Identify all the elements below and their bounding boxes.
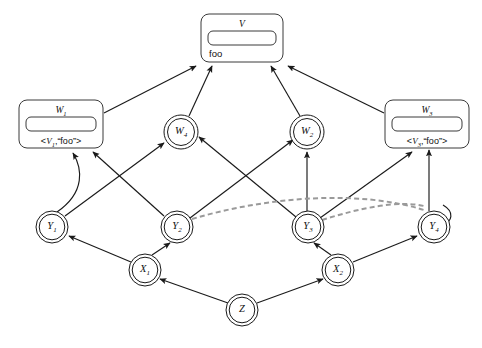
edge-w4-to-v (189, 66, 212, 116)
node-w1-content: <V1,“foo”> (41, 136, 81, 148)
edge-x1-to-y1 (69, 236, 131, 262)
node-y3[interactable]: Y3 (292, 211, 324, 243)
node-z-label: Z (239, 303, 245, 314)
node-w3-slot[interactable] (392, 117, 462, 131)
node-x1[interactable]: X1 (129, 254, 161, 286)
node-v[interactable]: V foo (201, 14, 283, 62)
node-w4[interactable]: W4 (164, 115, 198, 149)
edge-y3-to-y4-dashed (322, 204, 424, 220)
node-y1[interactable]: Y1 (36, 211, 68, 243)
edge-x2-to-y4 (353, 236, 417, 262)
node-w1-slot[interactable] (26, 117, 96, 131)
node-y4[interactable]: Y4 (418, 211, 450, 243)
edge-y1-to-w1 (57, 153, 80, 212)
node-v-slot[interactable] (208, 31, 276, 45)
node-w2[interactable]: W2 (290, 115, 324, 149)
edge-z-to-x1 (160, 279, 228, 303)
node-v-footer: foo (209, 48, 222, 59)
edge-x1-to-y2 (152, 243, 170, 255)
node-y2[interactable]: Y2 (161, 211, 193, 243)
edge-w1-to-v (104, 66, 196, 113)
node-x2[interactable]: X2 (322, 254, 354, 286)
edge-z-to-x2 (257, 279, 323, 303)
node-w3[interactable]: W3 <V3,“foo”> (385, 100, 469, 148)
edge-w2-to-v (271, 66, 300, 116)
diagram-canvas: V foo W1 <V1,“foo”> W3 <V3,“foo”> (0, 0, 482, 348)
node-w3-content: <V3,“foo”> (407, 136, 447, 148)
node-z[interactable]: Z (226, 294, 258, 326)
edge-x2-to-y3 (314, 243, 331, 255)
dependency-graph: V foo W1 <V1,“foo”> W3 <V3,“foo”> (0, 0, 482, 348)
edge-y2-to-w1 (93, 152, 164, 216)
node-w1[interactable]: W1 <V1,“foo”> (19, 100, 103, 148)
edge-w3-to-v (288, 66, 384, 113)
